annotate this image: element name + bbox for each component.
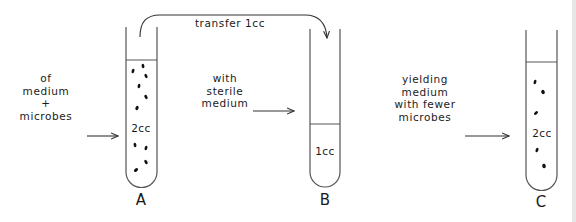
step-1-text: of medium + microbes [20, 72, 73, 122]
step-3-line-4: microbes [394, 111, 455, 124]
tube-c [526, 30, 557, 191]
tube-b-volume: 1cc [315, 145, 335, 157]
step-1-line-3: + [20, 97, 73, 110]
step-2-line-1: with [202, 72, 249, 85]
tube-b-label: B [320, 191, 330, 209]
diagram-artwork [0, 0, 576, 222]
tube-a-volume: 2cc [131, 122, 151, 134]
step-1-line-4: microbes [20, 110, 73, 123]
right-edge-strip [572, 0, 576, 222]
microbe-dots-a [131, 63, 148, 172]
step-3-text: yielding medium with fewer microbes [394, 73, 455, 123]
microbe-dots-c [533, 79, 546, 168]
tube-a [126, 27, 157, 188]
serial-dilution-diagram: transfer 1cc of medium + microbes with s… [0, 0, 576, 222]
transfer-label: transfer 1cc [195, 17, 265, 30]
tube-a-label: A [136, 191, 146, 209]
step-3-line-3: with fewer [394, 98, 455, 111]
tube-c-volume: 2cc [532, 127, 552, 139]
step-2-line-3: medium [202, 97, 249, 110]
step-1-line-2: medium [20, 85, 73, 98]
step-2-line-2: sterile [202, 85, 249, 98]
step-3-line-1: yielding [394, 73, 455, 86]
step-1-line-1: of [20, 72, 73, 85]
tube-b [310, 29, 340, 187]
step-2-text: with sterile medium [202, 72, 249, 110]
tube-c-label: C [536, 193, 546, 211]
step-3-line-2: medium [394, 86, 455, 99]
